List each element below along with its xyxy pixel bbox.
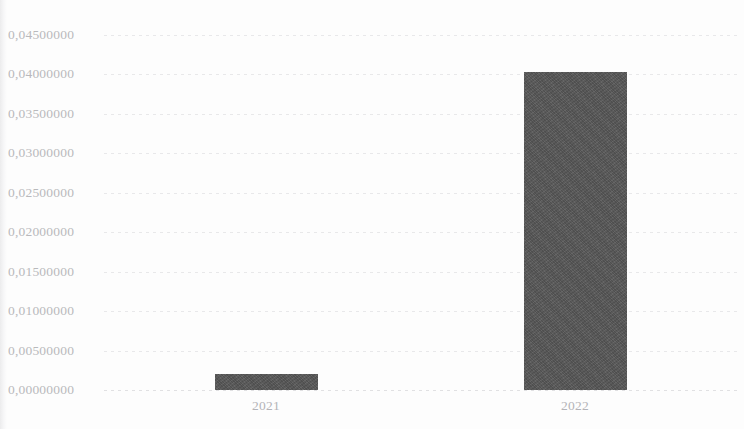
y-axis-tick-label: 0,04500000 [8, 27, 104, 43]
x-axis-tick-label: 2021 [252, 398, 280, 414]
gridline [104, 390, 740, 391]
x-axis-tick-label: 2022 [561, 398, 589, 414]
y-axis-tick-label: 0,03000000 [8, 145, 104, 161]
bar-chart: 0,000000000,005000000,010000000,01500000… [0, 0, 744, 429]
bar-series [104, 35, 740, 390]
y-axis-tick-label: 0,02000000 [8, 224, 104, 240]
y-axis-tick-label: 0,00000000 [8, 382, 104, 398]
plot-area [104, 35, 740, 390]
y-axis-tick-label: 0,01000000 [8, 303, 104, 319]
y-axis-tick-label: 0,03500000 [8, 106, 104, 122]
y-axis-labels: 0,000000000,005000000,010000000,01500000… [18, 35, 104, 390]
y-axis-tick-label: 0,01500000 [8, 264, 104, 280]
y-axis-tick-label: 0,02500000 [8, 185, 104, 201]
scan-edge-artifact [0, 0, 7, 429]
bar-2022 [524, 72, 627, 390]
y-axis-tick-label: 0,00500000 [8, 343, 104, 359]
y-axis-tick-label: 0,04000000 [8, 66, 104, 82]
bar-2021 [215, 374, 318, 390]
x-axis-labels: 20212022 [104, 398, 740, 424]
